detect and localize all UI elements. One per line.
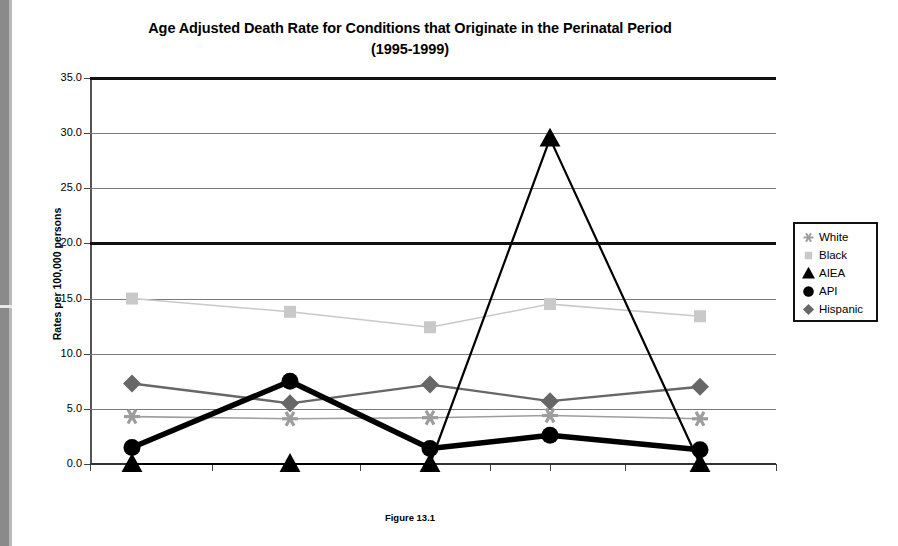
legend-item-label: Hispanic (819, 303, 863, 315)
data-point-marker (692, 441, 709, 458)
series-line (132, 381, 700, 449)
data-point-marker (542, 409, 558, 423)
series-line (132, 383, 700, 403)
data-point-marker (422, 411, 438, 425)
x-axis-tick (490, 464, 491, 471)
scan-edge-artifact-inner (9, 0, 12, 546)
data-point-marker (541, 392, 559, 410)
x-axis-tick (776, 464, 777, 471)
series-black (126, 293, 706, 334)
legend-item-label: Black (819, 249, 847, 261)
chart-title: Age Adjusted Death Rate for Conditions t… (60, 18, 760, 60)
y-axis-tick-label: 25.0 (34, 182, 82, 193)
data-point-marker (123, 374, 141, 392)
data-point-marker (282, 373, 299, 390)
data-point-marker (540, 128, 561, 147)
data-point-marker (422, 440, 439, 457)
data-point-marker (281, 394, 299, 412)
x-axis-tick (625, 464, 626, 471)
chart-title-line-1: Age Adjusted Death Rate for Conditions t… (148, 20, 671, 36)
legend-item-white[interactable]: White (800, 228, 876, 246)
legend-item-aiea[interactable]: AIEA (800, 264, 876, 282)
star-marker (800, 229, 817, 246)
scan-edge-nick (0, 305, 12, 308)
scan-edge-artifact (0, 0, 9, 546)
data-point-marker (692, 412, 708, 426)
legend-item-label: White (819, 231, 848, 243)
y-axis-tick-label: 30.0 (34, 127, 82, 138)
data-point-marker (694, 310, 706, 322)
legend-item-label: API (819, 285, 838, 297)
square-marker (800, 247, 817, 264)
legend-item-hispanic[interactable]: Hispanic (800, 300, 876, 318)
x-axis-tick (90, 464, 91, 471)
y-axis-tick-label: 15.0 (34, 293, 82, 304)
chart-title-line-2: (1995-1999) (60, 39, 760, 60)
y-axis-tick-labels: 35.030.025.020.015.010.05.00.0 (30, 78, 82, 464)
plot-area (90, 78, 776, 464)
data-point-marker (280, 453, 301, 472)
data-point-marker (691, 378, 709, 396)
triangle-marker (800, 265, 817, 282)
data-point-marker (544, 298, 556, 310)
data-point-marker (124, 439, 141, 456)
diamond-marker (800, 301, 817, 318)
data-point-marker (424, 321, 436, 333)
data-point-marker (282, 412, 298, 426)
y-axis-tick-label: 20.0 (34, 237, 82, 248)
y-axis-tick-label: 0.0 (34, 458, 82, 469)
legend-item-api[interactable]: API (800, 282, 876, 300)
legend-item-label: AIEA (819, 267, 845, 279)
series-aiea (122, 128, 711, 472)
series-line (132, 415, 700, 418)
data-point-marker (284, 306, 296, 318)
circle-marker (800, 283, 817, 300)
series-line (132, 299, 700, 328)
y-axis-tick-label: 5.0 (34, 403, 82, 414)
series-hispanic (123, 374, 709, 412)
y-axis-tick-label: 10.0 (34, 348, 82, 359)
chart-page: Age Adjusted Death Rate for Conditions t… (0, 0, 898, 546)
data-point-marker (421, 376, 439, 394)
series-white (124, 409, 708, 426)
data-point-marker (542, 427, 559, 444)
data-point-marker (126, 293, 138, 305)
figure-caption: Figure 13.1 (60, 512, 760, 523)
legend: WhiteBlackAIEAAPIHispanic (793, 222, 878, 322)
y-axis-tick-label: 35.0 (34, 72, 82, 83)
data-point-marker (124, 410, 140, 424)
legend-item-black[interactable]: Black (800, 246, 876, 264)
x-axis-tick (550, 464, 551, 471)
data-series-layer (90, 78, 776, 464)
series-line (132, 139, 700, 464)
